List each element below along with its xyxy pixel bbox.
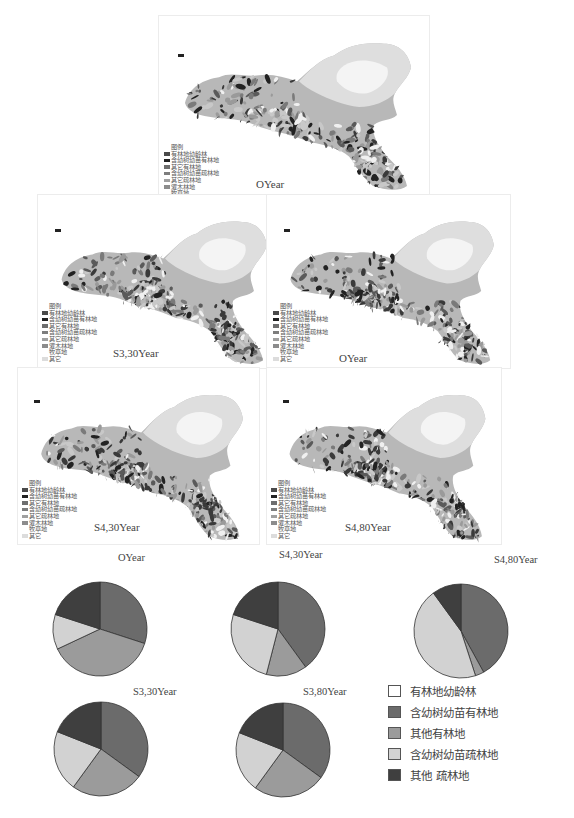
swatch-icon [22, 501, 28, 505]
swatch-icon [273, 324, 279, 328]
north-marker [178, 54, 184, 57]
swatch-icon [273, 338, 279, 342]
caption-s4-80year: S4,80Year [494, 554, 538, 565]
swatch-icon [388, 727, 401, 739]
pie-legend-item: 含幼树幼苗有林地 [388, 701, 498, 722]
swatch-icon [42, 331, 48, 335]
swatch-icon [22, 528, 28, 532]
pie-chart-s3-80year [411, 581, 511, 681]
swatch-icon [388, 706, 401, 718]
swatch-icon [271, 501, 277, 505]
pie-caption-s3-80year: S3,80Year [303, 686, 347, 697]
swatch-icon [42, 344, 48, 348]
swatch-icon [42, 338, 48, 342]
pie-legend-item: 含幼树幼苗疏林地 [388, 743, 498, 764]
panel-label: S3,30Year [113, 347, 159, 359]
pie-legend-item: 其他有林地 [388, 722, 498, 743]
swatch-icon [388, 769, 401, 781]
swatch-icon [273, 357, 279, 361]
swatch-icon [22, 508, 28, 512]
swatch-icon [271, 521, 277, 525]
swatch-icon [42, 351, 48, 355]
swatch-icon [164, 172, 170, 176]
swatch-icon [22, 534, 28, 538]
swatch-icon [164, 185, 170, 189]
map-panel-bottom-right: 图例有林地幼龄林含幼树幼苗有林地其它有林地含幼树幼苗疏林地其它疏林地灌木林地牧草… [266, 367, 502, 545]
map-panel-mid-right: 图例有林地幼龄林含幼树幼苗有林地其它有林地含幼树幼苗疏林地其它疏林地灌木林地牧草… [266, 194, 511, 369]
swatch-icon [273, 351, 279, 355]
swatch-icon [22, 488, 28, 492]
map-panel-mid-left: 图例有林地幼龄林含幼树幼苗有林地其它有林地含幼树幼苗疏林地其它疏林地灌木林地牧草… [37, 194, 284, 369]
north-marker [283, 400, 289, 403]
panel-label: OYear [339, 352, 367, 364]
map-panel-bottom-left: 图例有林地幼龄林含幼树幼苗有林地其它有林地含幼树幼苗疏林地其它疏林地灌木林地牧草… [17, 367, 260, 545]
pie-chart-s4-80year [233, 700, 333, 800]
swatch-icon [273, 344, 279, 348]
swatch-icon [271, 515, 277, 519]
swatch-icon [164, 165, 170, 169]
panel-label: S4,80Year [345, 521, 391, 533]
caption-oyear: OYear [118, 552, 145, 563]
panel-label: S4,30Year [94, 521, 140, 533]
swatch-icon [273, 331, 279, 335]
swatch-icon [388, 685, 401, 697]
swatch-icon [388, 748, 401, 760]
pie-legend-item: 有林地幼龄林 [388, 680, 498, 701]
swatch-icon [271, 534, 277, 538]
swatch-icon [22, 515, 28, 519]
pie-chart-oyear [50, 579, 150, 679]
swatch-icon [271, 528, 277, 532]
north-marker [284, 229, 290, 232]
map-legend: 图例有林地幼龄林含幼树幼苗有林地其它有林地含幼树幼苗疏林地其它疏林地灌木林地牧草… [22, 480, 77, 539]
swatch-icon [164, 179, 170, 183]
caption-s4-30year: S4,30Year [279, 549, 323, 560]
swatch-icon [22, 495, 28, 499]
map-legend: 图例有林地幼龄林含幼树幼苗有林地其它有林地含幼树幼苗疏林地其它疏林地灌木林地牧草… [42, 303, 97, 362]
swatch-icon [42, 318, 48, 322]
legend-item: 其它 [42, 356, 97, 363]
swatch-icon [164, 152, 170, 156]
swatch-icon [164, 159, 170, 163]
map-panel-top: 图例有林地幼龄林含幼树幼苗有林地其它有林地含幼树幼苗疏林地其它疏林地灌木林地牧草… [158, 15, 430, 195]
swatch-icon [271, 508, 277, 512]
panel-label: OYear [256, 178, 284, 190]
legend-item: 其它 [22, 533, 77, 540]
swatch-icon [42, 324, 48, 328]
swatch-icon [22, 521, 28, 525]
swatch-icon [273, 318, 279, 322]
map-legend: 图例有林地幼龄林含幼树幼苗有林地其它有林地含幼树幼苗疏林地其它疏林地灌木林地牧草… [271, 480, 326, 539]
map-legend: 图例有林地幼龄林含幼树幼苗有林地其它有林地含幼树幼苗疏林地其它疏林地灌木林地牧草… [273, 303, 328, 362]
swatch-icon [271, 488, 277, 492]
pie-chart-s4-30year [51, 699, 151, 799]
legend-item: 其它 [273, 356, 328, 363]
swatch-icon [273, 311, 279, 315]
north-marker [55, 229, 61, 232]
swatch-icon [42, 357, 48, 361]
pie-legend-item: 其他 疏林地 [388, 764, 498, 785]
north-marker [34, 400, 40, 403]
swatch-icon [42, 311, 48, 315]
pie-chart-s3-30year [228, 579, 328, 679]
legend-item: 其它 [271, 533, 326, 540]
pie-legend: 有林地幼龄林 含幼树幼苗有林地 其他有林地 含幼树幼苗疏林地 其他 疏林地 [388, 680, 498, 785]
swatch-icon [271, 495, 277, 499]
pie-caption-s3-30year: S3,30Year [133, 686, 177, 697]
